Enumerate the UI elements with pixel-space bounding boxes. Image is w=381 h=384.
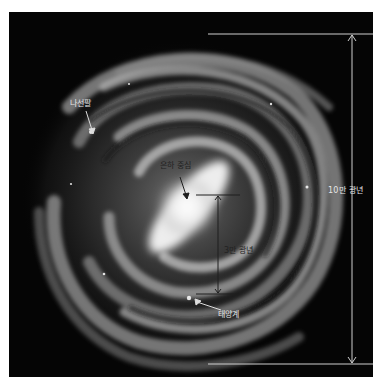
galaxy-image-frame [9, 12, 373, 377]
solar-system-marker [187, 296, 191, 300]
sun-distance-label: 3만 광년 [224, 246, 254, 256]
solar-system-label: 태양계 [218, 310, 240, 320]
galactic-center-label: 은하 중심 [160, 161, 192, 171]
milky-way-illustration [9, 12, 373, 377]
spiral-arm-label: 나선팔 [70, 99, 92, 109]
diameter-label: 10만 광년 [328, 186, 363, 196]
